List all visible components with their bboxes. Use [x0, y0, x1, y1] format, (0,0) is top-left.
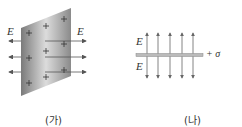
charged-sheet [136, 54, 203, 57]
surface-charge-label: + σ [206, 48, 220, 59]
field-label-top: E [136, 35, 143, 47]
caption-a: (가) [45, 112, 62, 127]
panel-b-charged-sheet-side: E E + σ (나) [121, 0, 242, 127]
panel-a-charged-plate-3d: E E (가) [0, 0, 121, 127]
field-label-bottom: E [136, 60, 143, 72]
field-label-left: E [7, 25, 14, 37]
caption-b: (나) [184, 112, 201, 127]
field-label-right: E [77, 25, 84, 37]
charged-plate-figure [0, 0, 121, 127]
